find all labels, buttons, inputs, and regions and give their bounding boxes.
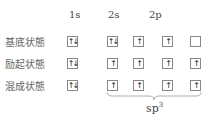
orbital-2py: ↑ bbox=[162, 36, 173, 47]
row-label-hybrid: 混成状態 bbox=[5, 78, 45, 93]
orbital-1s: ↑↓ bbox=[67, 58, 78, 69]
orbital-2s: ↑↓ bbox=[107, 36, 118, 47]
row-label-ground: 基底状態 bbox=[5, 34, 45, 49]
electron-arrow-icon: ↑↓ bbox=[68, 82, 77, 90]
orbital-1s: ↑↓ bbox=[67, 80, 78, 91]
orbital-2s: ↑ bbox=[107, 58, 118, 69]
electron-arrow-icon: ↑ bbox=[110, 60, 115, 68]
electron-arrow-icon: ↑ bbox=[110, 82, 115, 90]
electron-arrow-icon: ↑ bbox=[193, 82, 198, 90]
orbital-1s: ↑↓ bbox=[67, 36, 78, 47]
electron-arrow-icon: ↑ bbox=[165, 82, 170, 90]
orbital-2py: ↑ bbox=[162, 58, 173, 69]
orbital-sp3-3: ↑ bbox=[162, 80, 173, 91]
orbital-2px: ↑ bbox=[133, 58, 144, 69]
hybrid-label: sp3 bbox=[146, 101, 163, 115]
orbital-2pz bbox=[190, 36, 201, 47]
electron-arrow-icon: ↑ bbox=[136, 82, 141, 90]
electron-arrow-icon: ↑↓ bbox=[68, 60, 77, 68]
electron-arrow-icon: ↑↓ bbox=[68, 38, 77, 46]
electron-arrow-icon: ↑ bbox=[136, 38, 141, 46]
header-2s: 2s bbox=[108, 9, 120, 20]
electron-arrow-icon: ↑ bbox=[165, 60, 170, 68]
header-2p: 2p bbox=[149, 9, 162, 20]
brace-icon bbox=[106, 91, 202, 101]
orbital-2pz: ↑ bbox=[190, 58, 201, 69]
electron-arrow-icon: ↑↓ bbox=[108, 38, 117, 46]
electron-arrow-icon: ↑ bbox=[193, 60, 198, 68]
orbital-sp3-4: ↑ bbox=[190, 80, 201, 91]
row-label-excited: 励起状態 bbox=[5, 56, 45, 71]
header-1s: 1s bbox=[69, 9, 81, 20]
electron-arrow-icon: ↑ bbox=[136, 60, 141, 68]
orbital-2px: ↑ bbox=[133, 36, 144, 47]
orbital-sp3-1: ↑ bbox=[107, 80, 118, 91]
electron-arrow-icon: ↑ bbox=[165, 38, 170, 46]
orbital-sp3-2: ↑ bbox=[133, 80, 144, 91]
